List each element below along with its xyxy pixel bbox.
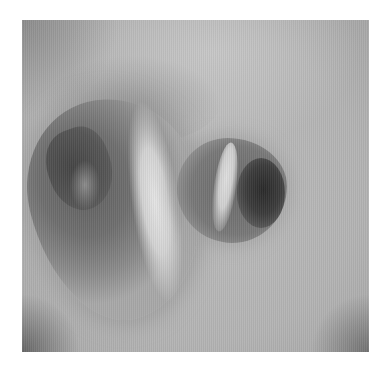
scanline-texture: [22, 20, 369, 352]
endoscopy-photo: [22, 20, 369, 352]
